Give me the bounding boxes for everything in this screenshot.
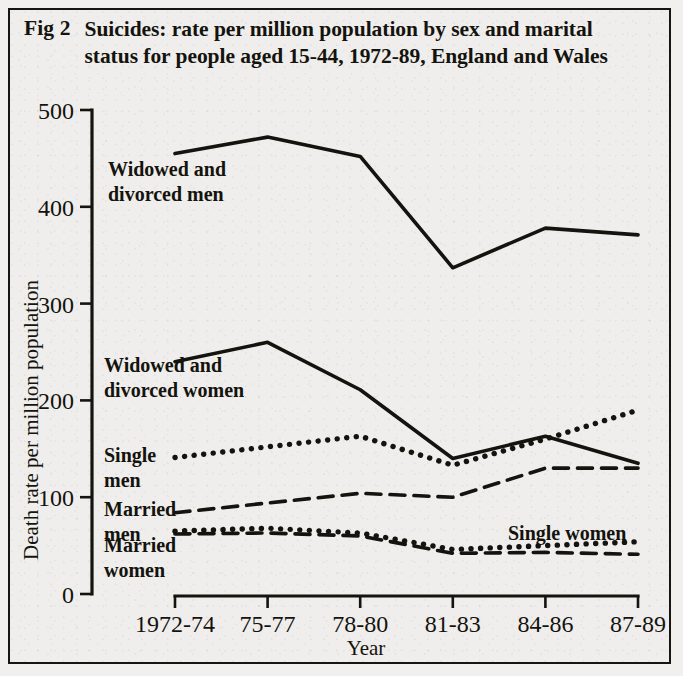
figure-caption: Fig 2 Suicides: rate per million populat… — [24, 16, 634, 70]
figure-number: Fig 2 — [24, 16, 70, 41]
paper-grain-texture — [10, 10, 669, 662]
figure-caption-text: Suicides: rate per million population by… — [84, 16, 634, 70]
figure-border — [8, 8, 671, 664]
figure-panel: Fig 2 Suicides: rate per million populat… — [0, 0, 683, 676]
